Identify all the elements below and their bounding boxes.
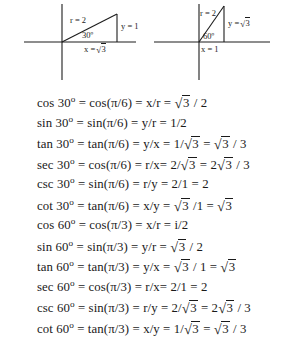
figure-page: r = 2 30º y = 1 x =√3 r = 2 60º	[0, 0, 305, 350]
equation-text: sin 30	[37, 116, 69, 130]
equation-text: cot 30	[37, 199, 69, 213]
equation-cos-30: cos 30o = cos(π/6) = x/r = √3 / 2	[0, 92, 305, 113]
sqrt-glyph: √3	[95, 45, 106, 54]
radicand: 3	[188, 157, 197, 172]
label-angle-30: 30º	[82, 31, 93, 40]
equation-text: = sin(π/6) = r/y = 2/1 = 2	[75, 177, 209, 191]
equation-text: = tan(π/3) = x/y = 1/	[74, 322, 184, 336]
radicand: 3	[221, 136, 230, 151]
equation-text: = tan(π/6) = y/x = 1/	[74, 137, 184, 151]
radical-sign: √	[218, 300, 226, 316]
radical-sign: √	[170, 239, 178, 255]
equation-text: / 2	[186, 240, 203, 254]
diagram-60-svg	[152, 0, 302, 92]
equation-text: cos 60	[37, 218, 71, 232]
label-adjacent-x: x = 1	[201, 45, 219, 54]
equation-text: sec 60	[37, 280, 70, 294]
sqrt-glyph: √3	[170, 240, 186, 254]
label-opposite-y: y =√3	[228, 19, 250, 28]
equation-text: = tan(π/3) = y/x =	[74, 260, 174, 274]
equation-text: sec 30	[37, 158, 70, 172]
sqrt-glyph: √3	[174, 96, 190, 110]
sqrt-glyph: √3	[174, 199, 190, 213]
equation-text: = sin(π/3) = y/r =	[73, 240, 170, 254]
equation-cos-60: cos 60o = cos(π/3) = x/r = i/2	[0, 215, 305, 236]
equation-text: = cos(π/6) = r/x= 2/	[75, 158, 181, 172]
diagram-60-degree-triangle: r = 2 60º y =√3 x = 1	[152, 0, 302, 92]
equation-sin-60: sin 60o = sin(π/3) = y/r = √3 / 2	[0, 236, 305, 257]
label-hypotenuse-r: r = 2	[200, 9, 216, 18]
equation-sec-60: sec 60o = cos(π/3) = r/x= 2/1 = 2	[0, 277, 305, 298]
equation-text: sin 60	[37, 240, 69, 254]
label-adjacent-x-prefix: x =	[84, 44, 95, 54]
sqrt-glyph: √3	[218, 301, 234, 315]
sqrt-glyph: √3	[184, 322, 200, 336]
equation-text: = cos(π/6) = x/r =	[75, 96, 174, 110]
label-angle-60: 60º	[203, 32, 214, 41]
radicand: 3	[178, 239, 187, 254]
equation-text: = 2	[197, 158, 217, 172]
equation-text: / 3	[230, 137, 247, 151]
radicand: 3	[191, 136, 200, 151]
radicand: 3	[228, 259, 237, 274]
radicand: 3	[181, 259, 190, 274]
equation-text: =	[200, 322, 214, 336]
equation-tan-30: tan 30o = tan(π/6) = y/x = 1/√3 = √3 / 3	[0, 133, 305, 154]
sqrt-glyph: √3	[214, 137, 230, 151]
radicand: 3	[224, 157, 233, 172]
equation-text: / 3	[233, 158, 250, 172]
equation-text: csc 60	[37, 301, 70, 315]
radicand: 3	[181, 198, 190, 213]
equation-text: = sin(π/6) = y/r = 1/2	[73, 116, 187, 130]
equation-text: = 2	[198, 301, 218, 315]
equation-text: /1 =	[190, 199, 217, 213]
label-opposite-y-prefix: y =	[228, 18, 239, 28]
radicand: 3	[189, 300, 198, 315]
equation-cot-30: cot 30o = tan(π/6) = x/y = √3 /1 = √3	[0, 195, 305, 216]
sqrt-glyph: √3	[217, 199, 233, 213]
equation-tan-60: tan 60o = tan(π/3) = y/x = √3 / 1 = √3	[0, 256, 305, 277]
equation-sec-30: sec 30o = cos(π/6) = r/x= 2/√3 = 2√3 / 3	[0, 154, 305, 175]
label-adjacent-x: x =√3	[84, 45, 106, 54]
radicand: 3	[245, 17, 250, 28]
equation-text: / 3	[234, 301, 251, 315]
equation-text: = tan(π/6) = x/y =	[74, 199, 174, 213]
radicand: 3	[225, 198, 234, 213]
sqrt-glyph: √3	[217, 158, 233, 172]
sqrt-glyph: √3	[214, 322, 230, 336]
sqrt-glyph: √3	[174, 260, 190, 274]
equation-list: cos 30o = cos(π/6) = x/r = √3 / 2sin 30o…	[0, 92, 305, 338]
equation-csc-60: csc 60o = sin(π/3) = r/y = 2/√3 = 2√3 / …	[0, 297, 305, 318]
equation-text: / 2	[190, 96, 207, 110]
equation-text: = cos(π/3) = r/x= 2/1 = 2	[75, 280, 208, 294]
radicand: 3	[101, 43, 106, 54]
equation-text: = sin(π/3) = r/y = 2/	[75, 301, 182, 315]
equation-text: cos 30	[37, 96, 71, 110]
equation-text: / 3	[230, 322, 247, 336]
equation-text: tan 60	[37, 260, 69, 274]
diagram-30-degree-triangle: r = 2 30º y = 1 x =√3	[18, 0, 158, 92]
sqrt-glyph: √3	[181, 158, 197, 172]
sqrt-glyph: √3	[184, 137, 200, 151]
equation-text: csc 30	[37, 177, 70, 191]
diagram-row: r = 2 30º y = 1 x =√3 r = 2 60º	[0, 0, 305, 92]
equation-text: =	[200, 137, 214, 151]
radicand: 3	[191, 321, 200, 336]
label-hypotenuse-r: r = 2	[70, 16, 86, 25]
label-opposite-y: y = 1	[121, 22, 139, 31]
equation-text: / 1 =	[190, 260, 221, 274]
equation-text: = cos(π/3) = x/r = i/2	[75, 218, 188, 232]
equation-cot-60: cot 60o = tan(π/3) = x/y = 1/√3 = √3 / 3	[0, 318, 305, 339]
radicand: 3	[182, 95, 191, 110]
sqrt-glyph: √3	[239, 19, 250, 28]
equation-csc-30: csc 30o = sin(π/6) = r/y = 2/1 = 2	[0, 174, 305, 195]
radicand: 3	[221, 321, 230, 336]
equation-text: cot 60	[37, 322, 69, 336]
equation-text: tan 30	[37, 137, 69, 151]
radical-sign: √	[217, 198, 225, 214]
sqrt-glyph: √3	[220, 260, 236, 274]
radicand: 3	[226, 300, 235, 315]
sqrt-glyph: √3	[182, 301, 198, 315]
equation-sin-30: sin 30o = sin(π/6) = y/r = 1/2	[0, 113, 305, 134]
